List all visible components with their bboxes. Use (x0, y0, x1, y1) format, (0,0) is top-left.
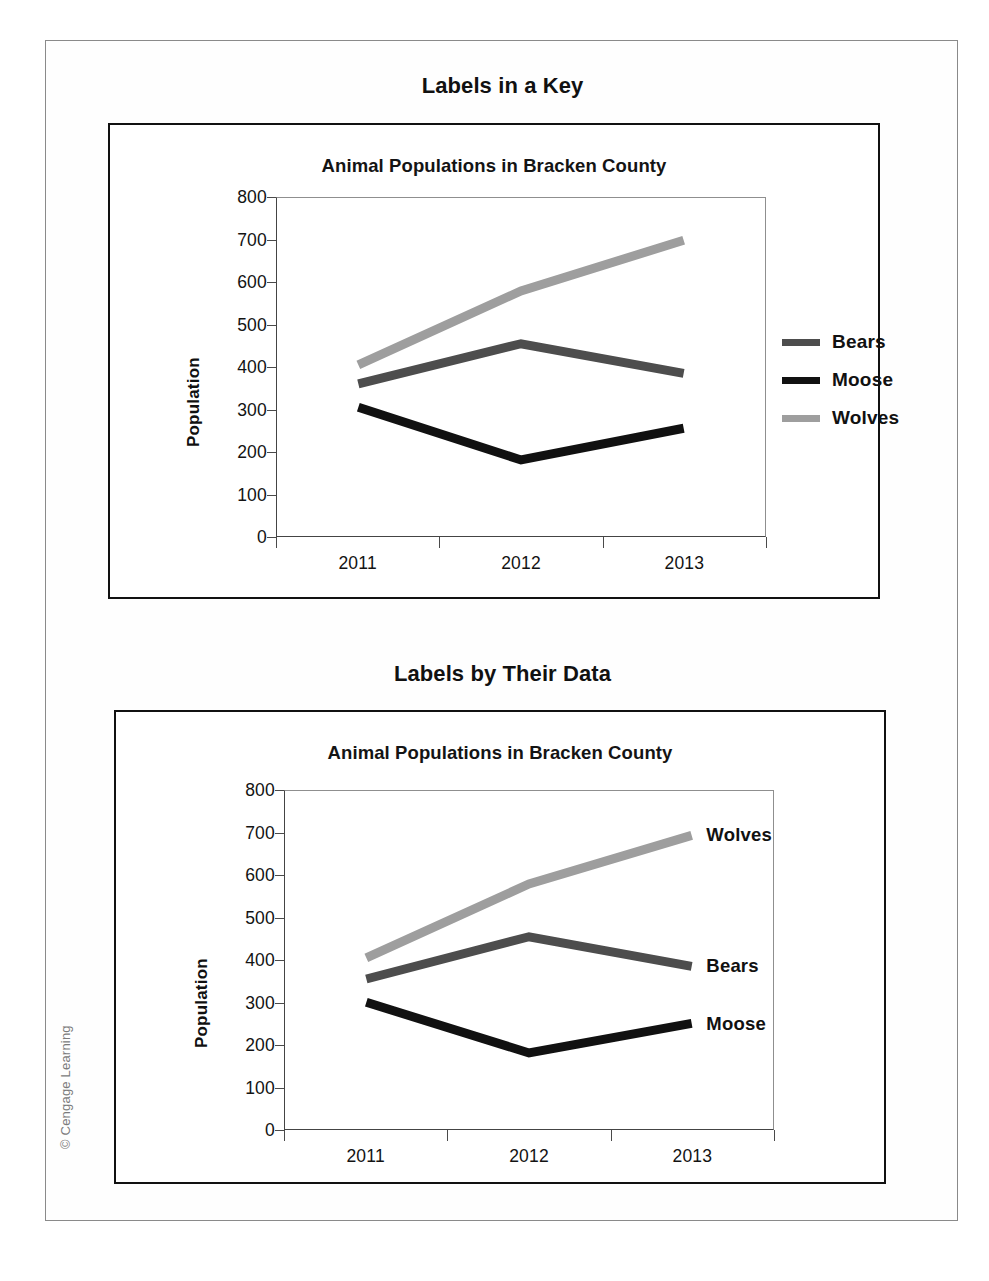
legend-swatch-bears (782, 339, 820, 346)
series-lines-key (277, 198, 765, 536)
x-tick-label: 2011 (338, 553, 376, 574)
y-tick-label: 100 (245, 1077, 275, 1098)
x-tick-label: 2012 (509, 1146, 549, 1167)
y-tick-mark (267, 240, 276, 241)
x-tick-mark (447, 1130, 448, 1141)
y-tick-mark (275, 1003, 284, 1004)
x-tick-mark (766, 537, 767, 548)
y-tick-label: 600 (245, 865, 275, 886)
y-tick-mark (267, 537, 276, 538)
legend-label-bears: Bears (832, 331, 886, 353)
section-heading-labels-by-their-data: Labels by Their Data (46, 661, 959, 687)
y-tick-label: 700 (245, 822, 275, 843)
chart-container-inline: Animal Populations in Bracken County Pop… (114, 710, 886, 1184)
x-tick-label: 2012 (501, 553, 541, 574)
plot-area-inline (284, 790, 774, 1130)
y-tick-label: 800 (237, 187, 267, 208)
data-label-moose: Moose (706, 1013, 766, 1035)
y-tick-label: 700 (237, 229, 267, 250)
y-tick-mark (275, 875, 284, 876)
y-tick-label: 200 (237, 442, 267, 463)
y-tick-mark (275, 1130, 284, 1131)
plot-wrapper-inline: Population 0100200300400500600700800 201… (284, 790, 774, 1130)
y-tick-mark (275, 790, 284, 791)
x-tick-mark (439, 537, 440, 548)
line-series-moose (366, 1002, 691, 1053)
x-tick-mark (284, 1130, 285, 1141)
y-axis-title-inline: Population (192, 958, 212, 1048)
legend-swatch-moose (782, 377, 820, 384)
y-tick-mark (267, 197, 276, 198)
chart-title-inline: Animal Populations in Bracken County (116, 742, 884, 764)
data-label-bears: Bears (706, 955, 758, 977)
y-tick-label: 0 (265, 1120, 275, 1141)
y-tick-label: 0 (257, 527, 267, 548)
x-tick-label: 2013 (672, 1146, 712, 1167)
y-tick-label: 100 (237, 484, 267, 505)
chart-container-key: Animal Populations in Bracken County Pop… (108, 123, 880, 599)
x-tick-label: 2011 (346, 1146, 384, 1167)
plot-wrapper-key: Population 0100200300400500600700800 201… (276, 197, 766, 537)
legend-item: Wolves (782, 399, 899, 437)
y-tick-label: 600 (237, 272, 267, 293)
chart-title-key: Animal Populations in Bracken County (110, 155, 878, 177)
y-tick-mark (267, 495, 276, 496)
y-tick-mark (275, 1088, 284, 1089)
y-tick-label: 500 (237, 314, 267, 335)
line-series-bears (358, 344, 683, 384)
legend-swatch-wolves (782, 415, 820, 422)
legend-item: Bears (782, 323, 899, 361)
y-tick-mark (267, 452, 276, 453)
series-lines-inline (285, 791, 773, 1129)
figure-frame: Labels in a Key Animal Populations in Br… (45, 40, 958, 1221)
y-axis-title-key: Population (184, 357, 204, 447)
x-tick-mark (276, 537, 277, 548)
y-tick-label: 400 (237, 357, 267, 378)
line-series-bears (366, 937, 691, 979)
section-heading-labels-in-a-key: Labels in a Key (46, 73, 959, 99)
y-tick-mark (275, 1045, 284, 1046)
y-tick-mark (275, 918, 284, 919)
legend-label-wolves: Wolves (832, 407, 899, 429)
y-tick-label: 400 (245, 950, 275, 971)
legend-item: Moose (782, 361, 899, 399)
y-tick-mark (267, 410, 276, 411)
data-label-wolves: Wolves (706, 824, 772, 846)
x-tick-mark (611, 1130, 612, 1141)
legend-label-moose: Moose (832, 369, 893, 391)
y-tick-mark (267, 282, 276, 283)
y-tick-label: 300 (245, 992, 275, 1013)
chart-legend-key: Bears Moose Wolves (782, 323, 899, 437)
y-tick-label: 200 (245, 1035, 275, 1056)
y-tick-mark (267, 367, 276, 368)
copyright-notice: © Cengage Learning (58, 989, 73, 1149)
x-tick-mark (774, 1130, 775, 1141)
x-tick-mark (603, 537, 604, 548)
y-tick-mark (267, 325, 276, 326)
y-tick-mark (275, 960, 284, 961)
plot-area-key (276, 197, 766, 537)
y-tick-label: 500 (245, 907, 275, 928)
y-tick-label: 800 (245, 780, 275, 801)
y-tick-label: 300 (237, 399, 267, 420)
y-tick-mark (275, 833, 284, 834)
x-tick-label: 2013 (664, 553, 704, 574)
line-series-moose (358, 407, 683, 460)
